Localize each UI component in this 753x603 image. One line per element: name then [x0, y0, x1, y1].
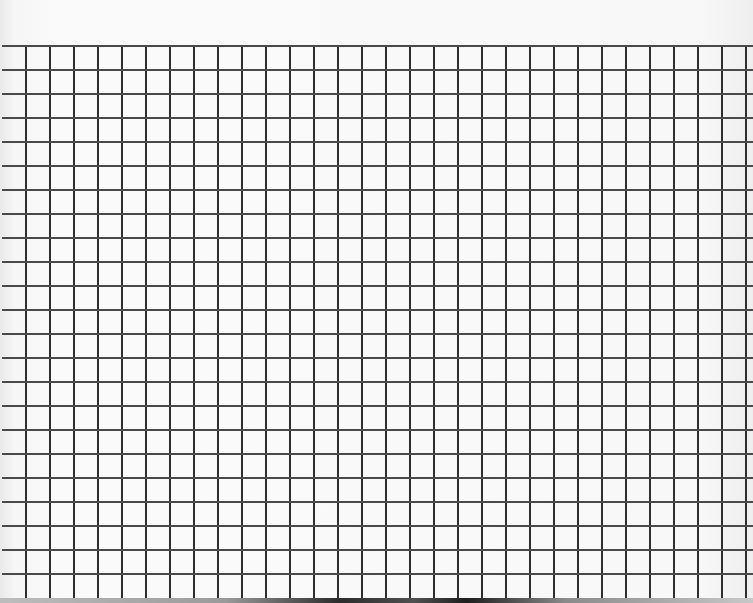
grid-vertical-line: [73, 45, 75, 598]
grid-vertical-line: [25, 45, 27, 598]
grid-horizontal-line: [2, 165, 753, 167]
grid-horizontal-line: [2, 357, 753, 359]
grid-horizontal-line: [2, 429, 753, 431]
grid-vertical-line: [697, 45, 699, 598]
grid-vertical-line: [649, 45, 651, 598]
grid-vertical-line: [241, 45, 243, 598]
grid-horizontal-line: [2, 189, 753, 191]
grid-horizontal-line: [2, 381, 753, 383]
grid-vertical-line: [529, 45, 531, 598]
grid-horizontal-line: [2, 525, 753, 527]
grid-horizontal-line: [2, 237, 753, 239]
grid-horizontal-line: [2, 93, 753, 95]
grid-vertical-line: [673, 45, 675, 598]
grid-vertical-line: [385, 45, 387, 598]
grid-vertical-line: [97, 45, 99, 598]
grid-horizontal-line: [2, 501, 753, 503]
grid-vertical-line: [433, 45, 435, 598]
grid-vertical-line: [289, 45, 291, 598]
grid-horizontal-line: [2, 453, 753, 455]
grid-vertical-line: [481, 45, 483, 598]
grid-horizontal-line: [2, 45, 753, 47]
grid-vertical-line: [505, 45, 507, 598]
grid-vertical-line: [409, 45, 411, 598]
grid-horizontal-line: [2, 69, 753, 71]
grid-horizontal-line: [2, 405, 753, 407]
grid-horizontal-line: [2, 261, 753, 263]
grid-vertical-line: [49, 45, 51, 598]
grid-vertical-line: [745, 45, 747, 598]
grid-vertical-line: [217, 45, 219, 598]
grid-vertical-line: [553, 45, 555, 598]
grid-horizontal-line: [2, 549, 753, 551]
grid-lines: [0, 0, 753, 603]
grid-vertical-line: [601, 45, 603, 598]
grid-vertical-line: [361, 45, 363, 598]
grid-horizontal-line: [2, 117, 753, 119]
grid-vertical-line: [121, 45, 123, 598]
grid-horizontal-line: [2, 141, 753, 143]
grid-horizontal-line: [2, 213, 753, 215]
grid-vertical-line: [313, 45, 315, 598]
grid-vertical-line: [193, 45, 195, 598]
grid-vertical-line: [577, 45, 579, 598]
bottom-edge-shadow: [0, 598, 753, 603]
grid-vertical-line: [169, 45, 171, 598]
grid-vertical-line: [145, 45, 147, 598]
grid-horizontal-line: [2, 573, 753, 575]
grid-horizontal-line: [2, 333, 753, 335]
grid-vertical-line: [265, 45, 267, 598]
grid-vertical-line: [721, 45, 723, 598]
grid-vertical-line: [337, 45, 339, 598]
grid-horizontal-line: [2, 285, 753, 287]
grid-vertical-line: [457, 45, 459, 598]
grid-horizontal-line: [2, 477, 753, 479]
grid-vertical-line: [625, 45, 627, 598]
grid-horizontal-line: [2, 309, 753, 311]
